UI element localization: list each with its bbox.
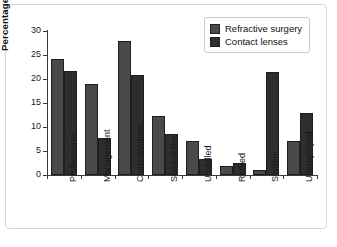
legend-swatch-icon (210, 24, 220, 34)
y-tick-label: 25 (31, 49, 41, 60)
bar[interactable] (287, 141, 300, 175)
bar[interactable] (186, 141, 199, 175)
x-tick-mark (216, 175, 217, 179)
x-tick-mark (182, 175, 183, 179)
legend-item[interactable]: Refractive surgery (210, 22, 302, 35)
legend-label: Refractive surgery (225, 23, 302, 34)
bar[interactable] (51, 59, 64, 175)
x-tick-label: Professional (68, 132, 78, 182)
x-tick-mark (317, 175, 318, 179)
bar[interactable] (118, 41, 131, 175)
chart-legend: Refractive surgeryContact lenses (204, 17, 310, 53)
y-tick-label: 0 (36, 169, 41, 180)
x-tick-label: Management (102, 129, 112, 182)
bar[interactable] (85, 84, 98, 175)
legend-swatch-icon (210, 37, 220, 47)
legend-item[interactable]: Contact lenses (210, 35, 302, 48)
y-axis-label: Percentage (0, 0, 10, 51)
x-tick-mark (250, 175, 251, 179)
x-tick-label: Unskilled (203, 145, 213, 182)
bar[interactable] (253, 170, 266, 175)
bar[interactable] (152, 116, 165, 175)
x-tick-label: Unemployed (304, 131, 314, 182)
x-tick-label: Retired (237, 153, 247, 182)
x-tick-label: Semi-skilled (169, 133, 179, 182)
chart-figure: Percentage 051015202530 ProfessionalMana… (5, 4, 327, 229)
y-tick-label: 5 (36, 145, 41, 156)
x-tick-mark (115, 175, 116, 179)
x-tick-label: Clerical/Admin (135, 124, 145, 182)
y-tick-label: 20 (31, 73, 41, 84)
x-tick-mark (148, 175, 149, 179)
y-tick-label: 10 (31, 121, 41, 132)
y-tick-label: 15 (31, 97, 41, 108)
legend-label: Contact lenses (225, 36, 288, 47)
x-tick-mark (47, 175, 48, 179)
x-tick-label: Student (270, 151, 280, 182)
x-tick-mark (283, 175, 284, 179)
x-tick-mark (81, 175, 82, 179)
y-tick-label: 30 (31, 25, 41, 36)
bar[interactable] (220, 166, 233, 175)
